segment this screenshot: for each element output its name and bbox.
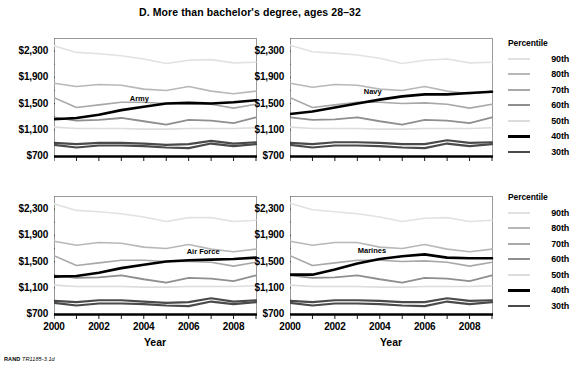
y-tick-label: $1,100 [0,282,48,293]
legend-item-50th: 50th [508,113,569,129]
y-tick-label: $1,500 [232,256,284,267]
legend-top: Percentile 90th80th70th60th50th40th30th [508,38,569,160]
x-tick-label: 2006 [169,321,209,332]
x-tick-label: 2008 [214,321,254,332]
legend-swatch-icon [508,135,530,138]
source-note-code: TR1185-3.1d [22,356,55,362]
y-tick-label: $1,900 [0,229,48,240]
legend-label: 60th [535,100,569,110]
y-tick-label: $1,100 [232,124,284,135]
y-tick-label: $700 [0,150,48,161]
plot-area [290,38,504,168]
legend-swatch-icon [508,58,530,60]
source-note: RAND TR1185-3.1d [4,356,55,362]
y-tick-label: $1,900 [0,71,48,82]
legend-title: Percentile [508,192,569,202]
legend-swatch-icon [508,151,530,153]
legend-label: 90th [535,54,569,64]
x-axis-title: Year [351,336,431,348]
figure-container: D. More than bachelor's degree, ages 28–… [0,0,573,375]
plot-area [290,196,504,326]
legend-item-70th: 70th [508,236,569,252]
legend-item-90th: 90th [508,205,569,221]
legend-item-40th: 40th [508,283,569,299]
legend-swatch-icon [508,274,530,276]
legend-item-80th: 80th [508,67,569,83]
panel-marines [290,196,504,326]
legend-title: Percentile [508,38,569,48]
legend-label: 40th [535,285,569,295]
series-annotation-air-force: Air Force [187,247,220,256]
series-annotation-army: Army [130,94,149,103]
legend-label: 70th [535,85,569,95]
y-tick-label: $700 [0,308,48,319]
legend-swatch-icon [508,89,530,91]
legend-item-40th: 40th [508,129,569,145]
y-tick-label: $700 [232,308,284,319]
legend-swatch-icon [508,227,530,229]
legend-item-90th: 90th [508,51,569,67]
legend-label: 80th [535,223,569,233]
y-tick-label: $1,100 [0,124,48,135]
y-tick-label: $2,300 [232,203,284,214]
legend-bottom: Percentile 90th80th70th60th50th40th30th [508,192,569,314]
legend-swatch-icon [508,289,530,292]
legend-label: 80th [535,69,569,79]
y-tick-label: $2,300 [232,45,284,56]
y-tick-label: $1,500 [232,98,284,109]
x-tick-label: 2004 [360,321,400,332]
y-tick-label: $1,500 [0,256,48,267]
x-tick-label: 2000 [270,321,310,332]
plot-frame [55,39,257,157]
source-note-rand: RAND [4,356,20,362]
x-tick-label: 2002 [79,321,119,332]
series-annotation-marines: Marines [358,246,386,255]
legend-swatch-icon [508,120,530,122]
x-tick-label: 2004 [124,321,164,332]
legend-item-30th: 30th [508,298,569,314]
legend-label: 70th [535,239,569,249]
legend-label: 50th [535,270,569,280]
legend-label: 90th [535,208,569,218]
plot-frame [55,197,257,315]
legend-rows: 90th80th70th60th50th40th30th [508,205,569,314]
panel-navy [290,38,504,168]
y-tick-label: $700 [232,150,284,161]
legend-label: 30th [535,147,569,157]
legend-swatch-icon [508,258,530,260]
plot-frame [291,197,493,315]
legend-label: 30th [535,301,569,311]
x-axis-title: Year [115,336,195,348]
y-tick-label: $1,500 [0,98,48,109]
legend-swatch-icon [508,305,530,307]
y-tick-label: $1,900 [232,229,284,240]
series-annotation-navy: Navy [364,87,382,96]
legend-item-60th: 60th [508,252,569,268]
x-tick-label: 2006 [405,321,445,332]
legend-label: 60th [535,254,569,264]
legend-label: 50th [535,116,569,126]
x-tick-label: 2000 [34,321,74,332]
legend-swatch-icon [508,212,530,214]
legend-item-30th: 30th [508,144,569,160]
legend-swatch-icon [508,73,530,75]
y-tick-label: $1,900 [232,71,284,82]
legend-swatch-icon [508,243,530,245]
legend-item-60th: 60th [508,98,569,114]
legend-rows: 90th80th70th60th50th40th30th [508,51,569,160]
legend-label: 40th [535,131,569,141]
legend-item-50th: 50th [508,267,569,283]
y-tick-label: $2,300 [0,45,48,56]
y-tick-label: $2,300 [0,203,48,214]
legend-swatch-icon [508,104,530,106]
chart-title: D. More than bachelor's degree, ages 28–… [0,6,500,18]
x-tick-label: 2002 [315,321,355,332]
legend-item-70th: 70th [508,82,569,98]
y-tick-label: $1,100 [232,282,284,293]
legend-item-80th: 80th [508,221,569,237]
x-tick-label: 2008 [450,321,490,332]
